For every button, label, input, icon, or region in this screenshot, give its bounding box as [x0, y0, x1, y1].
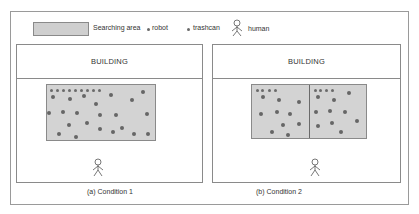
trashcan-dot [57, 132, 61, 136]
legend-robot-label: robot [152, 24, 168, 31]
robot-dot [325, 89, 328, 92]
trashcan-dot [286, 133, 290, 137]
robot-dot [86, 89, 89, 92]
robot-dot [268, 89, 271, 92]
panel-condition-1: BUILDING [16, 44, 203, 183]
legend-robot-dot-icon [147, 28, 150, 31]
trashcan-dot [132, 132, 136, 136]
area-divider [309, 85, 310, 138]
robot-dot [74, 89, 77, 92]
trashcan-dot [120, 126, 124, 130]
trashcan-dot [98, 113, 102, 117]
robot-dot [92, 89, 95, 92]
building-header: BUILDING [213, 45, 400, 79]
trashcan-dot [347, 91, 351, 95]
robot-dot [50, 89, 53, 92]
trashcan-dot [355, 119, 359, 123]
building-header: BUILDING [17, 45, 202, 79]
trashcan-dot [316, 95, 320, 99]
searching-area [46, 84, 156, 141]
panel-condition-2: BUILDING [212, 44, 401, 183]
robot-dot [68, 89, 71, 92]
legend-human-label: human [248, 25, 269, 32]
trashcan-dot [261, 95, 265, 99]
trashcan-dot [68, 97, 72, 101]
trashcan-dot [61, 110, 65, 114]
robot-dot [319, 89, 322, 92]
legend-human-icon [231, 19, 243, 37]
trashcan-dot [146, 132, 150, 136]
robot-dot [314, 89, 317, 92]
robot-dot [80, 89, 83, 92]
trashcan-dot [281, 123, 285, 127]
robot-dot [274, 89, 277, 92]
trashcan-dot [270, 130, 274, 134]
trashcan-dot [85, 121, 89, 125]
trashcan-dot [339, 130, 343, 134]
legend-trashcan-label: trashcan [193, 24, 220, 31]
trashcan-dot [47, 111, 51, 115]
trashcan-dot [114, 113, 118, 117]
robot-dot [56, 89, 59, 92]
robot-dot [256, 89, 259, 92]
trashcan-dot [343, 110, 347, 114]
trashcan-dot [82, 94, 86, 98]
caption-condition-1: (a) Condition 1 [87, 188, 133, 195]
trashcan-dot [141, 90, 145, 94]
trashcan-dot [98, 127, 102, 131]
trashcan-dot [75, 111, 79, 115]
trashcan-dot [145, 112, 149, 116]
trashcan-dot [288, 112, 292, 116]
trashcan-dot [277, 98, 281, 102]
caption-condition-2: (b) Condition 2 [256, 188, 302, 195]
trashcan-dot [297, 122, 301, 126]
legend-searching-area-label: Searching area [93, 24, 140, 31]
robot-dot [98, 89, 101, 92]
trashcan-dot [51, 95, 55, 99]
trashcan-dot [109, 93, 113, 97]
human-icon [92, 158, 104, 177]
trashcan-dot [275, 110, 279, 114]
trashcan-dot [259, 112, 263, 116]
trashcan-dot [130, 98, 134, 102]
human-icon [309, 158, 321, 177]
robot-dot [62, 89, 65, 92]
trashcan-dot [332, 98, 336, 102]
trashcan-dot [94, 102, 98, 106]
trashcan-dot [111, 130, 115, 134]
trashcan-dot [328, 109, 332, 113]
trashcan-dot [330, 121, 334, 125]
robot-dot [331, 89, 334, 92]
trashcan-dot [314, 110, 318, 114]
legend-searching-area-swatch [33, 22, 89, 36]
trashcan-dot [74, 135, 78, 139]
trashcan-dot [67, 123, 71, 127]
robot-dot [261, 89, 264, 92]
legend-trashcan-dot-icon [187, 28, 190, 31]
trashcan-dot [316, 124, 320, 128]
trashcan-dot [297, 100, 301, 104]
searching-area-split [251, 84, 367, 139]
